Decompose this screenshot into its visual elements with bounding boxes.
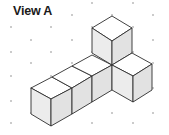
- grid-dot: [71, 62, 73, 64]
- grid-dot: [50, 75, 52, 77]
- cube-figure: [31, 16, 152, 126]
- grid-dot: [10, 122, 12, 124]
- grid-dot: [71, 14, 73, 16]
- grid-dot: [152, 112, 154, 114]
- grid-dot: [91, 122, 93, 124]
- grid-dot: [30, 39, 32, 41]
- grid-dot: [30, 62, 32, 64]
- grid-dot: [132, 122, 134, 124]
- grid-dot: [10, 51, 12, 53]
- grid-dot: [152, 39, 154, 41]
- grid-dot: [132, 2, 134, 4]
- isometric-drawing: [0, 0, 169, 135]
- grid-dot: [10, 75, 12, 77]
- grid-dot: [50, 51, 52, 53]
- grid-dot: [152, 62, 154, 64]
- grid-dot: [152, 14, 154, 16]
- grid-dot: [91, 2, 93, 4]
- grid-dot: [10, 26, 12, 28]
- grid-dot: [10, 100, 12, 102]
- grid-dot: [50, 26, 52, 28]
- grid-dot: [111, 112, 113, 114]
- view-label: View A: [13, 4, 52, 18]
- grid-dot: [71, 39, 73, 41]
- grid-dot: [132, 26, 134, 28]
